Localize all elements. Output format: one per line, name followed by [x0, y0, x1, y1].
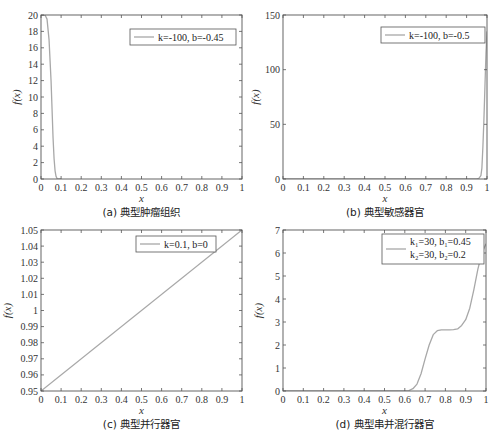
x-tick-label: 0.6 [399, 394, 412, 405]
y-tick-label: 3 [275, 317, 280, 328]
y-tick-label: 14 [28, 59, 38, 70]
y-axis-label: f(x) [10, 89, 23, 105]
legend: k=-100, b=-0.45 [130, 29, 236, 45]
x-tick-label: 1 [240, 394, 245, 405]
y-tick-label: 7 [275, 225, 280, 236]
y-tick-label: 6 [33, 124, 38, 135]
legend-entry: k₂=30, b₂=0.2 [410, 249, 466, 260]
y-tick-label: 0.95 [21, 386, 39, 397]
y-tick-label: 1 [275, 363, 280, 374]
x-tick-label: 0.7 [175, 182, 188, 193]
figure-canvas: 00.10.20.30.40.50.60.70.80.9102468101214… [0, 0, 493, 435]
y-tick-label: 150 [265, 10, 280, 21]
y-axis-label: f(x) [1, 303, 14, 319]
x-tick-label: 0.3 [338, 394, 351, 405]
x-tick-label: 0.3 [338, 182, 351, 193]
y-tick-label: 2 [275, 340, 280, 351]
x-tick-label: 0.1 [297, 182, 310, 193]
y-tick-label: 0 [33, 174, 38, 185]
data-line-b [283, 31, 487, 179]
data-line-c [41, 230, 242, 391]
subplot-caption: (b) 典型敏感器官 [346, 206, 424, 218]
legend-entry: k₁=30, b₁=0.45 [410, 236, 471, 247]
y-tick-label: 0 [275, 174, 280, 185]
x-tick-label: 0.7 [419, 394, 432, 405]
y-tick-label: 10 [28, 92, 38, 103]
y-tick-label: 1.04 [21, 241, 39, 252]
x-axis-label: x [138, 192, 144, 204]
y-tick-label: 0.97 [21, 353, 39, 364]
legend: k=0.1, b=0 [136, 236, 216, 252]
x-tick-label: 0.9 [216, 394, 229, 405]
x-tick-label: 0 [39, 394, 44, 405]
subplot-caption: (d) 典型串并混行器官 [335, 418, 433, 430]
x-tick-label: 0.7 [420, 182, 433, 193]
x-tick-label: 0.9 [216, 182, 229, 193]
x-tick-label: 0.6 [155, 182, 168, 193]
y-axis-label: f(x) [252, 303, 265, 319]
x-tick-label: 0.4 [358, 182, 371, 193]
x-tick-label: 0 [281, 394, 286, 405]
y-tick-label: 1.01 [21, 289, 39, 300]
x-tick-label: 1 [240, 182, 245, 193]
subplot-caption: (a) 典型肿瘤组织 [103, 206, 181, 218]
y-tick-label: 4 [275, 294, 280, 305]
x-tick-label: 0.8 [440, 182, 453, 193]
data-line-d [283, 244, 486, 391]
x-axis-label: x [381, 404, 387, 416]
legend-entry: k=-100, b=-0.5 [409, 30, 469, 41]
x-tick-label: 0.2 [318, 182, 331, 193]
y-tick-label: 50 [270, 119, 280, 130]
x-tick-label: 0.4 [115, 394, 128, 405]
y-tick-label: 1.05 [21, 225, 39, 236]
y-axis-label: f(x) [249, 89, 262, 105]
x-tick-label: 0.1 [55, 394, 68, 405]
x-axis-label: x [382, 192, 388, 204]
subplot-caption: (c) 典型并行器官 [103, 418, 180, 430]
legend: k=-100, b=-0.5 [381, 27, 485, 43]
y-tick-label: 18 [28, 26, 38, 37]
y-tick-label: 5 [275, 271, 280, 282]
y-tick-label: 6 [275, 248, 280, 259]
subplot-b: 00.10.20.30.40.50.60.70.80.91050100150xf… [249, 10, 490, 219]
y-tick-label: 0 [275, 386, 280, 397]
x-tick-label: 0.1 [55, 182, 68, 193]
x-tick-label: 0.7 [175, 394, 188, 405]
y-tick-label: 20 [28, 10, 38, 21]
legend-entry: k=-100, b=-0.45 [158, 32, 223, 43]
y-tick-label: 0.98 [21, 337, 39, 348]
y-tick-label: 4 [33, 141, 38, 152]
legend-entry: k=0.1, b=0 [164, 239, 208, 250]
y-tick-label: 1 [33, 305, 38, 316]
x-tick-label: 0.9 [460, 182, 473, 193]
subplot-a: 00.10.20.30.40.50.60.70.80.9102468101214… [10, 10, 245, 219]
x-tick-label: 0.9 [459, 394, 472, 405]
x-tick-label: 0.2 [75, 182, 88, 193]
data-line-a [41, 15, 61, 179]
subplot-c: 00.10.20.30.40.50.60.70.80.910.950.960.9… [1, 225, 245, 431]
x-tick-label: 0.2 [317, 394, 330, 405]
y-tick-label: 2 [33, 157, 38, 168]
x-tick-label: 0 [39, 182, 44, 193]
x-tick-label: 0.8 [439, 394, 452, 405]
y-tick-label: 8 [33, 108, 38, 119]
x-tick-label: 0.4 [115, 182, 128, 193]
x-tick-label: 0.1 [297, 394, 310, 405]
x-tick-label: 0.3 [95, 394, 108, 405]
y-tick-label: 0.99 [21, 321, 39, 332]
x-tick-label: 0.2 [75, 394, 88, 405]
x-tick-label: 1 [485, 182, 490, 193]
y-tick-label: 1.03 [21, 257, 39, 268]
x-axis-label: x [138, 404, 144, 416]
y-tick-label: 1.02 [21, 273, 39, 284]
y-tick-label: 12 [28, 75, 38, 86]
x-tick-label: 0.8 [196, 394, 209, 405]
y-tick-label: 0.96 [21, 369, 39, 380]
x-tick-label: 0.8 [196, 182, 209, 193]
y-tick-label: 16 [28, 42, 38, 53]
subplot-d: 00.10.20.30.40.50.60.70.80.9101234567xf(… [252, 225, 489, 431]
x-tick-label: 0.6 [155, 394, 168, 405]
x-tick-label: 0 [281, 182, 286, 193]
legend: k₁=30, b₁=0.45k₂=30, b₂=0.2 [382, 234, 484, 264]
y-tick-label: 100 [265, 64, 280, 75]
